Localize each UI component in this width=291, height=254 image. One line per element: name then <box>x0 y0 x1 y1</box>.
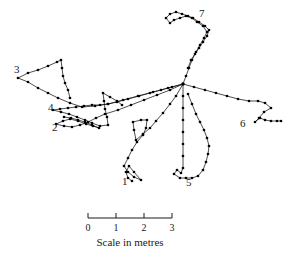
trail-node <box>69 102 72 105</box>
trail-node <box>133 176 136 179</box>
trail-node <box>169 89 172 92</box>
trail-node <box>47 65 50 68</box>
trail-node <box>76 116 79 119</box>
trail-node <box>146 119 149 122</box>
trail-node <box>192 17 195 20</box>
trail-node <box>155 120 158 123</box>
trail-node <box>204 89 207 92</box>
trail-node <box>79 124 82 127</box>
trail-node <box>71 126 74 129</box>
trail-node <box>136 141 139 144</box>
trail-node <box>57 97 60 100</box>
trail-node <box>102 92 105 95</box>
trail-node <box>117 109 120 112</box>
trail-node <box>143 99 146 102</box>
trail-node <box>56 61 59 64</box>
trail-node <box>99 125 102 128</box>
trail-node <box>162 112 165 115</box>
trail-node <box>187 67 190 70</box>
trail-node <box>121 104 124 107</box>
trail-node <box>75 106 78 109</box>
trail-node <box>104 108 107 111</box>
trail-node <box>254 121 257 124</box>
trail-node <box>195 113 198 116</box>
trail-node <box>99 104 102 107</box>
trail-node <box>176 169 179 172</box>
trail-node <box>133 171 136 174</box>
scale-tick-label-3: 3 <box>170 222 175 233</box>
trail-node <box>131 149 134 152</box>
trail-node <box>191 103 194 106</box>
trail-node <box>207 153 210 156</box>
trail-node <box>182 167 185 170</box>
trail-node <box>175 95 178 98</box>
scale-tick-label-2: 2 <box>142 222 147 233</box>
trail-node <box>125 171 128 174</box>
trail-node <box>179 177 182 180</box>
trail-node <box>264 102 267 105</box>
trail-node <box>83 105 86 108</box>
trail-node <box>203 129 206 132</box>
trail-diagram-svg: 1234567 0123Scale in metres <box>0 0 291 254</box>
trail-node <box>127 98 130 101</box>
trail-node <box>69 97 72 100</box>
trail-node <box>17 77 20 80</box>
trail-node <box>187 15 190 18</box>
trail-node <box>173 19 176 22</box>
trail-node <box>182 155 185 158</box>
trail-node <box>259 117 262 120</box>
branch-label-7: 7 <box>199 7 205 19</box>
trail-node <box>84 119 87 122</box>
trail-node <box>116 100 119 103</box>
trail-node <box>199 121 202 124</box>
trail-node <box>149 127 152 130</box>
central-nest-hub <box>181 82 185 86</box>
trail-node <box>203 37 206 40</box>
trail-node <box>182 119 185 122</box>
trail-node <box>226 95 229 98</box>
scale-tick-label-1: 1 <box>114 222 119 233</box>
trail-node <box>185 75 188 78</box>
trail-node <box>276 120 279 123</box>
trail-node <box>182 131 185 134</box>
branch-label-4: 4 <box>48 101 54 113</box>
trail-node <box>202 169 205 172</box>
trail-node <box>193 86 196 89</box>
trail-node <box>169 13 172 16</box>
trail-node <box>123 165 126 168</box>
trail-node <box>175 11 178 14</box>
trail-node <box>215 92 218 95</box>
trail-node <box>182 143 185 146</box>
trail-node <box>107 103 110 106</box>
trail-node <box>133 129 136 132</box>
trail-node <box>109 96 112 99</box>
trail-node <box>198 21 201 24</box>
trail-node <box>160 89 163 92</box>
trail-node <box>67 107 70 110</box>
trail-node <box>140 179 143 182</box>
trail-node <box>194 53 197 56</box>
trail-node <box>180 172 183 175</box>
trail-node <box>202 41 205 44</box>
trail-node <box>59 108 62 111</box>
branch-label-3: 3 <box>14 63 20 75</box>
trail-node <box>63 116 66 119</box>
trail-node <box>182 107 185 110</box>
trail-node <box>149 92 152 95</box>
trail-node <box>263 111 266 114</box>
trail-node <box>103 100 106 103</box>
trail-node <box>63 125 66 128</box>
branch-label-5: 5 <box>186 176 192 188</box>
trail-node <box>130 104 133 107</box>
trail-node <box>68 113 71 116</box>
trail-node <box>257 100 260 103</box>
trail-node <box>187 93 190 96</box>
branch-label-1: 1 <box>122 175 128 187</box>
trail-node <box>171 86 174 89</box>
trail-node <box>248 100 251 103</box>
trail-node <box>204 25 207 28</box>
trail-node <box>173 173 176 176</box>
branch-label-2: 2 <box>52 121 58 133</box>
trail-node <box>145 127 148 130</box>
trail-node <box>208 145 211 148</box>
